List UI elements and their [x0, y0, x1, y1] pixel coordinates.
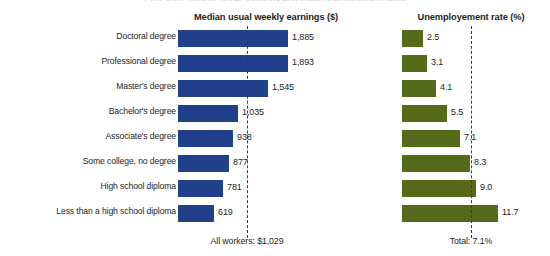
unemployment-value-label: 4.1	[440, 82, 452, 92]
chart-row: Less than a high school diploma61911.7	[0, 201, 550, 226]
earnings-bar	[178, 180, 223, 197]
category-label: High school diploma	[101, 181, 177, 191]
unemployment-bar	[402, 180, 476, 197]
chart-row: Some college, no degree8778.3	[0, 151, 550, 176]
chart-row: Master's degree1,5454.1	[0, 76, 550, 101]
unemployment-bar	[402, 130, 460, 147]
unemployment-value-label: 11.7	[502, 207, 518, 217]
reference-line-unemployment	[471, 26, 472, 238]
category-label: Some college, no degree	[83, 156, 176, 166]
earnings-value-label: 1,893	[292, 57, 314, 67]
unemployment-bar	[402, 155, 470, 172]
chart-supertitle: Education pays in higher earnings and lo…	[0, 0, 550, 1]
chart-row: Associate's degree9387.1	[0, 126, 550, 151]
unemployment-bar	[402, 30, 423, 47]
category-label: Doctoral degree	[116, 31, 176, 41]
unemployment-value-label: 5.5	[451, 107, 463, 117]
footer-total-rate: Total: 7.1%	[411, 236, 531, 246]
unemployment-value-label: 2.5	[427, 32, 439, 42]
footer-all-workers: All workers: $1,029	[167, 236, 327, 246]
chart-row: Doctoral degree1,8852.5	[0, 26, 550, 51]
earnings-value-label: 1,885	[292, 32, 314, 42]
unemployment-bar	[402, 55, 427, 72]
earnings-value-label: 877	[233, 157, 248, 167]
unemployment-bar	[402, 80, 436, 97]
earnings-bar	[178, 130, 233, 147]
panel-title-unemployment: Unemployement rate (%)	[392, 12, 550, 22]
chart-figure: Education pays in higher earnings and lo…	[0, 0, 550, 256]
earnings-value-label: 1,545	[272, 82, 294, 92]
chart-row: Bachelor's degree1,0355.5	[0, 101, 550, 126]
reference-line-earnings	[247, 26, 248, 238]
category-label: Less than a high school diploma	[56, 206, 176, 216]
earnings-bar	[178, 105, 238, 122]
earnings-value-label: 1,035	[242, 107, 264, 117]
earnings-bar	[178, 155, 229, 172]
unemployment-value-label: 3.1	[431, 57, 443, 67]
panel-title-earnings: Median usual weekly earnings ($)	[176, 12, 356, 22]
unemployment-value-label: 8.3	[474, 157, 486, 167]
earnings-bar	[178, 30, 288, 47]
earnings-value-label: 938	[237, 132, 252, 142]
earnings-value-label: 619	[218, 207, 233, 217]
unemployment-value-label: 9.0	[480, 182, 492, 192]
unemployment-bar	[402, 105, 447, 122]
chart-row: High school diploma7819.0	[0, 176, 550, 201]
category-label: Bachelor's degree	[109, 106, 176, 116]
earnings-value-label: 781	[227, 182, 242, 192]
earnings-bar	[178, 205, 214, 222]
category-label: Associate's degree	[105, 131, 176, 141]
earnings-bar	[178, 80, 268, 97]
category-label: Professional degree	[101, 56, 176, 66]
earnings-bar	[178, 55, 288, 72]
unemployment-bar	[402, 205, 498, 222]
chart-row: Professional degree1,8933.1	[0, 51, 550, 76]
category-label: Master's degree	[116, 81, 176, 91]
